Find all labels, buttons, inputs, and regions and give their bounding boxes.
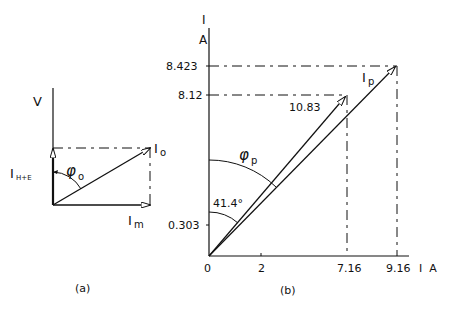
- im-sub: m: [134, 219, 144, 230]
- angle-414-label: 41.4°: [213, 197, 243, 210]
- figure-b-caption: (b): [280, 284, 296, 297]
- phi-o-label: φ: [66, 162, 76, 180]
- y-tick-label-0303: 0.303: [168, 219, 200, 232]
- voltage-axis-label: V: [33, 94, 42, 109]
- phi-o-sub: o: [78, 171, 84, 182]
- ip-sub: p: [368, 76, 374, 87]
- y-tick-label-812: 8.12: [178, 89, 203, 102]
- figure-a-caption: (a): [75, 282, 90, 295]
- x-tick-label-2: 2: [258, 262, 265, 275]
- phi-p-sub: p: [251, 155, 257, 166]
- x-axis-label: I A: [419, 262, 437, 275]
- io-sub: o: [160, 147, 166, 158]
- im-label: I: [128, 213, 132, 228]
- ihe-label: I: [10, 166, 14, 181]
- figure-a: V φ o I o I m I H+E (a): [10, 88, 166, 295]
- phi-p-arc: [209, 160, 276, 187]
- phi-p-label: φ: [239, 146, 249, 164]
- io-label: I: [154, 141, 158, 156]
- y-tick-label-8423: 8.423: [166, 60, 198, 73]
- x-tick-label-0: 0: [204, 262, 211, 275]
- y-axis-label-i: I: [202, 13, 206, 27]
- angle-414-arc: [209, 212, 238, 223]
- phasor-diagrams: V φ o I o I m I H+E (a) I A 8.423: [0, 0, 460, 313]
- ip-label: I: [362, 70, 366, 85]
- x-tick-label-916: 9.16: [386, 262, 411, 275]
- y-axis-label-unit: A: [199, 33, 208, 47]
- vector-1083: [209, 97, 345, 256]
- ihe-sub: H+E: [16, 174, 32, 182]
- x-tick-label-716: 7.16: [337, 262, 362, 275]
- figure-b: I A 8.423 8.12 0.303 0 2 7.16 9.16 I A 4…: [166, 13, 437, 297]
- magnitude-1083-label: 10.83: [289, 101, 321, 114]
